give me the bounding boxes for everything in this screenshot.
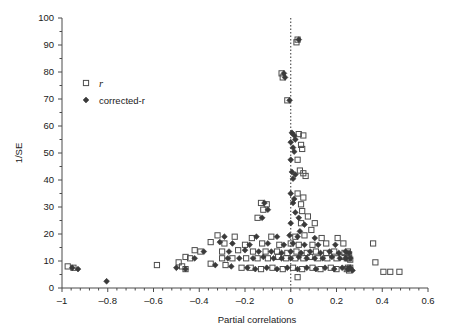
data-point-corrected-r xyxy=(287,232,293,238)
data-point-corrected-r xyxy=(288,249,294,255)
x-tick-label: –0.2 xyxy=(236,295,255,306)
data-point-r xyxy=(305,214,310,219)
data-point-r xyxy=(154,262,159,267)
data-point-r xyxy=(263,249,268,254)
data-point-corrected-r xyxy=(332,242,338,248)
data-point-corrected-r xyxy=(242,247,248,253)
data-point-corrected-r xyxy=(265,241,271,247)
data-point-corrected-r xyxy=(288,191,294,197)
legend-label-r: r xyxy=(99,78,104,89)
data-point-corrected-r xyxy=(296,215,302,221)
data-point-corrected-r xyxy=(288,157,294,163)
y-axis-title: 1/SE xyxy=(13,143,24,164)
data-point-r xyxy=(295,191,300,196)
data-point-r xyxy=(192,248,197,253)
data-point-r xyxy=(309,227,314,232)
data-point-r xyxy=(312,221,317,226)
legend-label-corrected-r: corrected-r xyxy=(99,95,145,106)
x-tick-label: –1 xyxy=(57,295,68,306)
data-point-r xyxy=(258,267,263,272)
data-point-corrected-r xyxy=(222,234,228,240)
data-point-corrected-r xyxy=(337,255,343,261)
data-point-corrected-r xyxy=(302,242,308,248)
data-point-corrected-r xyxy=(173,265,179,271)
data-point-r xyxy=(388,269,393,274)
data-point-corrected-r xyxy=(228,264,234,270)
data-point-corrected-r xyxy=(226,249,232,255)
data-point-r xyxy=(300,208,305,213)
data-point-r xyxy=(302,233,307,238)
legend: rcorrected-r xyxy=(83,78,145,106)
data-point-corrected-r xyxy=(347,255,353,261)
y-tick-label: 20 xyxy=(43,228,54,239)
data-point-r xyxy=(236,248,241,253)
data-point-corrected-r xyxy=(331,266,337,272)
data-point-corrected-r xyxy=(304,255,310,261)
y-tick-label: 10 xyxy=(43,255,54,266)
data-point-corrected-r xyxy=(295,234,301,240)
data-point-r xyxy=(324,241,329,246)
data-point-r xyxy=(269,234,274,239)
data-point-corrected-r xyxy=(290,241,296,247)
y-tick-label: 90 xyxy=(43,39,54,50)
data-point-r xyxy=(232,234,237,239)
y-tick-label: 70 xyxy=(43,93,54,104)
data-point-r xyxy=(208,240,213,245)
data-point-r xyxy=(373,260,378,265)
y-tick-label: 80 xyxy=(43,66,54,77)
data-point-r xyxy=(250,249,255,254)
data-point-r xyxy=(215,233,220,238)
x-tick-label: –0.8 xyxy=(99,295,118,306)
y-tick-label: 60 xyxy=(43,120,54,131)
data-point-r xyxy=(244,256,249,261)
y-tick-label: 40 xyxy=(43,174,54,185)
data-point-corrected-r xyxy=(230,241,236,247)
x-tick-label: 0.2 xyxy=(330,295,343,306)
data-point-r xyxy=(381,269,386,274)
data-point-corrected-r xyxy=(274,234,280,240)
data-point-r xyxy=(223,262,228,267)
data-point-corrected-r xyxy=(312,235,318,241)
data-point-r xyxy=(298,202,303,207)
data-point-r xyxy=(295,157,300,162)
data-point-r xyxy=(310,242,315,247)
legend-marker-corrected-r xyxy=(83,97,89,103)
data-point-corrected-r xyxy=(315,242,321,248)
data-point-r xyxy=(296,242,301,247)
data-point-corrected-r xyxy=(288,220,294,226)
x-tick-label: 0 xyxy=(288,295,293,306)
data-point-corrected-r xyxy=(302,222,308,228)
data-point-corrected-r xyxy=(244,265,250,271)
data-point-corrected-r xyxy=(264,265,270,271)
y-tick-label: 30 xyxy=(43,201,54,212)
data-point-r xyxy=(319,235,324,240)
data-point-corrected-r xyxy=(268,249,274,255)
data-point-corrected-r xyxy=(287,97,293,103)
x-axis-title: Partial correlations xyxy=(218,314,297,325)
data-point-r xyxy=(220,256,225,261)
data-point-corrected-r xyxy=(296,37,302,43)
data-point-r xyxy=(220,249,225,254)
data-point-corrected-r xyxy=(201,249,207,255)
data-point-r xyxy=(260,241,265,246)
data-point-corrected-r xyxy=(292,210,298,216)
data-point-r xyxy=(295,275,300,280)
y-tick-label: 50 xyxy=(43,147,54,158)
data-point-r xyxy=(371,241,376,246)
y-tick-label: 0 xyxy=(49,282,54,293)
data-point-corrected-r xyxy=(307,249,313,255)
data-point-corrected-r xyxy=(262,200,268,206)
data-point-corrected-r xyxy=(256,249,262,255)
legend-marker-r xyxy=(83,80,88,85)
data-point-r xyxy=(301,195,306,200)
data-point-corrected-r xyxy=(236,255,242,261)
x-tick-label: 0.4 xyxy=(376,295,389,306)
scatter-plot-canvas: 0102030405060708090100–1–0.8–0.6–0.4–0.2… xyxy=(0,0,451,334)
funnel-plot-figure: 0102030405060708090100–1–0.8–0.6–0.4–0.2… xyxy=(0,0,451,334)
x-tick-label: –0.4 xyxy=(190,295,209,306)
data-point-r xyxy=(335,235,340,240)
data-point-r xyxy=(341,241,346,246)
x-tick-label: 0.6 xyxy=(421,295,434,306)
data-point-r xyxy=(397,269,402,274)
x-tick-label: –0.6 xyxy=(144,295,163,306)
